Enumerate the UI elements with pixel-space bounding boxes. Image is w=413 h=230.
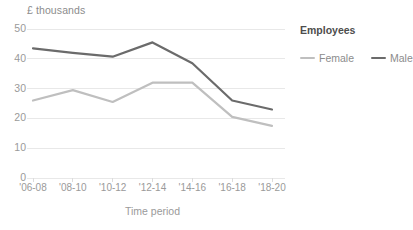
legend-item-male[interactable]: Male (371, 52, 413, 64)
legend-title: Employees (300, 24, 355, 36)
y-axis-tick-label: 50 (4, 22, 26, 34)
y-axis-tick-label: 20 (4, 111, 26, 123)
legend: FemaleMale (300, 52, 413, 64)
legend-swatch-female (300, 57, 315, 60)
legend-swatch-male (371, 57, 386, 60)
series-line-male (33, 42, 272, 109)
legend-label-female: Female (319, 52, 354, 64)
x-axis-tick-label: '18-20 (248, 182, 296, 193)
legend-item-female[interactable]: Female (300, 52, 354, 64)
x-axis-title: Time period (0, 205, 312, 217)
series-line-female (33, 83, 272, 126)
y-axis-tick-label: 10 (4, 141, 26, 153)
y-axis-tick-label: 30 (4, 82, 26, 94)
legend-label-male: Male (390, 52, 413, 64)
y-axis-tick-label: 40 (4, 52, 26, 64)
